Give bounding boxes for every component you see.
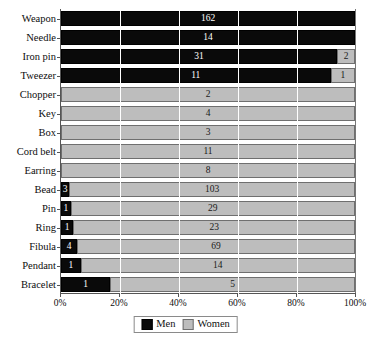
- bar-row: 114: [61, 258, 355, 273]
- x-axis-label-100pct: 100%: [335, 298, 371, 308]
- bar-segment-women: 23: [73, 220, 355, 235]
- x-axis-tick: [296, 293, 297, 297]
- bar-row: 123: [61, 220, 355, 235]
- bar-segment-women: 29: [71, 201, 355, 216]
- bar-segment-women: 4: [61, 106, 355, 121]
- x-axis-label-40pct: 40%: [158, 298, 198, 308]
- category-label-weapon: Weapon: [0, 11, 56, 26]
- category-label-bead: Bead: [0, 182, 56, 197]
- bar-segment-women: 2: [61, 87, 355, 102]
- category-label-ring: Ring: [0, 220, 56, 235]
- bar-row: 469: [61, 239, 355, 254]
- category-label-key: Key: [0, 106, 56, 121]
- bar-row: 312: [61, 49, 355, 64]
- x-axis-tick: [178, 293, 179, 297]
- bar-row: 3: [61, 125, 355, 140]
- bar-row: 14: [61, 30, 355, 45]
- bar-row: 11: [61, 144, 355, 159]
- category-label-bracelet: Bracelet: [0, 277, 56, 292]
- bar-segment-men: 1: [61, 220, 73, 235]
- bar-segment-women: 11: [61, 144, 355, 159]
- category-tick: [57, 114, 60, 115]
- gridline-100: [356, 9, 357, 294]
- bar-segment-men: 11: [61, 68, 331, 83]
- category-label-pin: Pin: [0, 201, 56, 216]
- bar-row: 4: [61, 106, 355, 121]
- legend-swatch-men-icon: [141, 319, 152, 330]
- plot-area: 16214312111243118310312912346911415: [60, 9, 355, 294]
- bar-segment-women: 1: [331, 68, 355, 83]
- bar-segment-women: 8: [61, 163, 355, 178]
- x-axis-label-60pct: 60%: [217, 298, 257, 308]
- legend-item-women: Women: [182, 319, 229, 330]
- legend-item-men: Men: [141, 319, 175, 330]
- category-tick: [57, 209, 60, 210]
- category-tick: [57, 247, 60, 248]
- category-tick: [57, 95, 60, 96]
- category-tick: [57, 76, 60, 77]
- bar-segment-men: 31: [61, 49, 337, 64]
- category-tick: [57, 38, 60, 39]
- bar-row: 129: [61, 201, 355, 216]
- category-tick: [57, 171, 60, 172]
- category-label-tweezer: Tweezer: [0, 68, 56, 83]
- category-label-pendant: Pendant: [0, 258, 56, 273]
- bar-segment-men: 162: [61, 11, 355, 26]
- category-label-iron-pin: Iron pin: [0, 49, 56, 64]
- stacked-bar-chart: 16214312111243118310312912346911415 Weap…: [0, 0, 371, 342]
- bar-segment-women: 2: [337, 49, 355, 64]
- bar-row: 8: [61, 163, 355, 178]
- category-tick: [57, 133, 60, 134]
- chart-legend: Men Women: [133, 316, 238, 333]
- category-label-fibula: Fibula: [0, 239, 56, 254]
- bar-segment-women: 69: [77, 239, 355, 254]
- legend-swatch-women-icon: [182, 319, 193, 330]
- bar-segment-men: 1: [61, 201, 71, 216]
- x-axis-tick: [355, 293, 356, 297]
- bar-segment-men: 4: [61, 239, 77, 254]
- category-label-cord-belt: Cord belt: [0, 144, 56, 159]
- category-tick: [57, 190, 60, 191]
- bar-row: 162: [61, 11, 355, 26]
- bar-segment-women: 103: [69, 182, 355, 197]
- bar-segment-women: 3: [61, 125, 355, 140]
- category-tick: [57, 19, 60, 20]
- bar-segment-men: 1: [61, 277, 110, 292]
- category-tick: [57, 228, 60, 229]
- bar-row: 2: [61, 87, 355, 102]
- category-label-needle: Needle: [0, 30, 56, 45]
- category-label-box: Box: [0, 125, 56, 140]
- x-axis-tick: [119, 293, 120, 297]
- bar-row: 3103: [61, 182, 355, 197]
- legend-label-men: Men: [156, 319, 175, 330]
- category-tick: [57, 152, 60, 153]
- bar-segment-men: 3: [61, 182, 69, 197]
- x-axis-label-20pct: 20%: [99, 298, 139, 308]
- bar-segment-women: 5: [110, 277, 355, 292]
- x-axis-tick: [60, 293, 61, 297]
- x-axis-label-0pct: 0%: [40, 298, 80, 308]
- x-axis-label-80pct: 80%: [276, 298, 316, 308]
- bar-row: 15: [61, 277, 355, 292]
- plot-right-border: [355, 9, 356, 294]
- category-tick: [57, 285, 60, 286]
- category-tick: [57, 57, 60, 58]
- category-label-chopper: Chopper: [0, 87, 56, 102]
- bar-segment-men: 14: [61, 30, 355, 45]
- x-axis-line: [60, 293, 356, 294]
- bar-segment-women: 14: [81, 258, 355, 273]
- category-label-earring: Earring: [0, 163, 56, 178]
- legend-label-women: Women: [197, 319, 229, 330]
- x-axis-tick: [237, 293, 238, 297]
- category-tick: [57, 266, 60, 267]
- bar-row: 111: [61, 68, 355, 83]
- bar-segment-men: 1: [61, 258, 81, 273]
